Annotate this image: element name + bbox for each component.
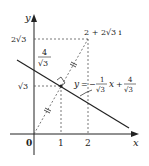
intercept-fraction: 4 √3	[38, 48, 51, 68]
y-tick-2sqrt3: 2√3	[11, 35, 26, 44]
x-axis	[10, 131, 139, 137]
svg-text:y: y	[73, 79, 80, 89]
diagram: y x 0 1 2 √3 2√3 2 + 2√3 i 4 √3 y = − 1 …	[0, 0, 149, 166]
svg-text:√3: √3	[38, 59, 48, 68]
y-axis-label: y	[24, 12, 31, 23]
y-tick-sqrt3: √3	[18, 82, 28, 91]
svg-text:√3: √3	[124, 86, 133, 94]
svg-text:4: 4	[42, 48, 47, 57]
x-tick-1: 1	[58, 138, 64, 148]
svg-text:−: −	[89, 80, 96, 89]
svg-text:=: =	[81, 80, 88, 89]
svg-text:x: x	[109, 79, 114, 89]
x-tick-2: 2	[85, 138, 91, 148]
x-axis-label: x	[133, 137, 139, 148]
svg-text:√3: √3	[96, 86, 105, 94]
midpoint-dot	[59, 84, 62, 87]
line-equation: y = − 1 √3 x + 4 √3	[73, 76, 136, 94]
point-label: 2 + 2√3 i	[84, 28, 122, 37]
svg-text:+: +	[116, 80, 123, 89]
equation-leader	[80, 90, 92, 96]
svg-text:1: 1	[100, 76, 104, 84]
origin-label: 0	[26, 138, 32, 148]
svg-text:4: 4	[128, 76, 133, 84]
